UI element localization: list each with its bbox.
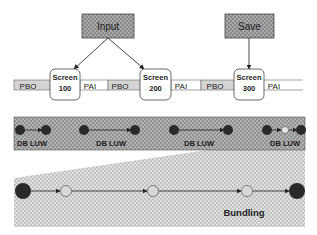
db-luw-band [14,117,305,150]
luw-start-node [262,125,272,135]
luw-mid-node [282,127,289,134]
luw-end-node [130,125,140,135]
bundling-label: Bundling [223,207,264,218]
db-luw-4-label: DB LUW [270,139,301,148]
screen-100-number: 100 [59,84,72,93]
segment-pai-1-label: PAI [84,82,96,91]
screen-300-title: Screen [236,73,261,82]
luw-start-node [169,125,179,135]
screen-100-node: Screen 100 [50,69,80,100]
bundle-end-node [289,183,305,199]
screen-200-number: 200 [149,84,162,93]
luw-end-node [296,125,306,135]
diagram-canvas: Input Save PBO PAI PBO PAI PBO PAI Scree… [0,0,317,235]
bundle-mid-node-3 [242,186,253,197]
luw-end-node [223,125,233,135]
save-label: Save [238,21,261,32]
db-luw-3-label: DB LUW [184,139,215,148]
screen-200-node: Screen 200 [140,69,171,100]
segment-pbo-2-label: PBO [112,82,129,91]
db-luw-2-label: DB LUW [96,139,127,148]
screen-300-number: 300 [243,84,256,93]
bundle-start-node [15,183,31,199]
screen-100-title: Screen [52,73,77,82]
segment-pai-2-label: PAI [175,82,187,91]
db-luw-1-label: DB LUW [17,139,48,148]
input-box: Input [82,14,134,38]
input-label: Input [97,21,119,32]
screen-200-title: Screen [143,73,168,82]
segment-pbo-1-label: PBO [20,82,37,91]
bundle-mid-node-2 [148,186,159,197]
luw-end-node [41,125,51,135]
bundle-mid-node-1 [61,186,72,197]
arrow-input-to-screen200 [108,38,144,69]
arrow-input-to-screen100 [74,38,108,69]
luw-start-node [15,125,25,135]
segment-pai-3-label: PAI [268,82,280,91]
save-box: Save [225,14,274,38]
screen-300-node: Screen 300 [234,69,264,100]
luw-start-node [79,125,89,135]
segment-pbo-3-label: PBO [207,82,224,91]
